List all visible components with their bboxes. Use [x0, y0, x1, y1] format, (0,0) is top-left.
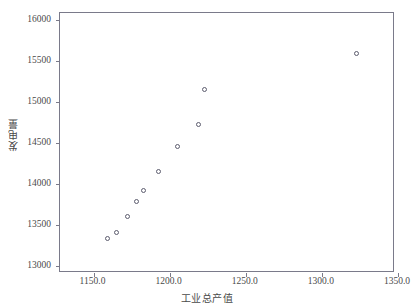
y-axis-tick — [56, 102, 60, 103]
plot-frame — [59, 12, 394, 272]
x-axis-tick — [398, 273, 399, 277]
data-point — [134, 199, 139, 204]
y-axis-tick — [56, 266, 60, 267]
scatter-chart: 13000135001400014500150001550016000 1150… — [0, 0, 414, 308]
y-axis-tick-label: 13000 — [27, 260, 51, 270]
y-axis-tick-label: 15500 — [27, 55, 51, 65]
y-axis-tick — [56, 61, 60, 62]
y-axis-tick — [56, 20, 60, 21]
y-axis-title: 发电量 — [6, 118, 21, 151]
y-axis-tick-label: 14500 — [27, 137, 51, 147]
data-point — [175, 144, 180, 149]
data-point — [156, 169, 161, 174]
y-axis-tick — [56, 143, 60, 144]
x-axis-tick-label: 1200.0 — [156, 276, 182, 286]
y-axis-tick-label: 15000 — [27, 96, 51, 106]
data-point — [114, 230, 119, 235]
y-axis-tick-label: 13500 — [27, 219, 51, 229]
y-axis-tick — [56, 184, 60, 185]
y-axis-tick — [56, 225, 60, 226]
data-point — [202, 87, 207, 92]
x-axis-tick — [170, 273, 171, 277]
y-axis-tick-labels: 13000135001400014500150001550016000 — [0, 0, 55, 308]
y-axis-tick-label: 16000 — [27, 14, 51, 24]
data-point — [196, 122, 201, 127]
x-axis-tick-label: 1150.0 — [80, 276, 106, 286]
data-point — [105, 236, 110, 241]
data-point — [141, 188, 146, 193]
data-point — [354, 51, 359, 56]
x-axis-tick-label: 1250.0 — [232, 276, 258, 286]
x-axis-tick — [246, 273, 247, 277]
x-axis-title: 工业总产值 — [0, 290, 414, 305]
y-axis-tick-label: 14000 — [27, 178, 51, 188]
plot-area — [60, 13, 393, 271]
data-point — [125, 214, 130, 219]
x-axis-tick-label: 1300.0 — [308, 276, 334, 286]
x-axis-tick — [322, 273, 323, 277]
x-axis-tick — [94, 273, 95, 277]
x-axis-tick-label: 1350.0 — [384, 276, 410, 286]
